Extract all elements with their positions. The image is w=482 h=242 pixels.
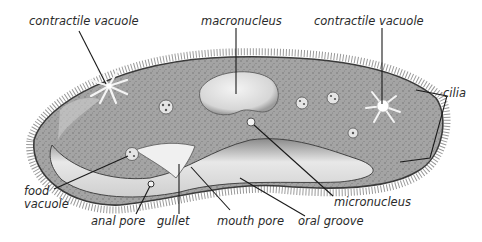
label-gullet: gullet — [157, 215, 190, 228]
anal-pore-shape — [148, 181, 154, 187]
label-mouth-pore: mouth pore — [217, 215, 284, 228]
label-food-vacuole-line2: vacuole — [24, 198, 69, 211]
label-contractile-vacuole-left: contractile vacuole — [29, 15, 139, 28]
micronucleus-shape — [247, 118, 255, 126]
label-micronucleus: micronucleus — [334, 196, 411, 209]
label-cilia: cilia — [443, 87, 466, 100]
label-anal-pore: anal pore — [91, 215, 145, 228]
label-macronucleus: macronucleus — [201, 15, 282, 28]
label-contractile-vacuole-right: contractile vacuole — [314, 15, 424, 28]
label-oral-groove: oral groove — [298, 215, 364, 228]
